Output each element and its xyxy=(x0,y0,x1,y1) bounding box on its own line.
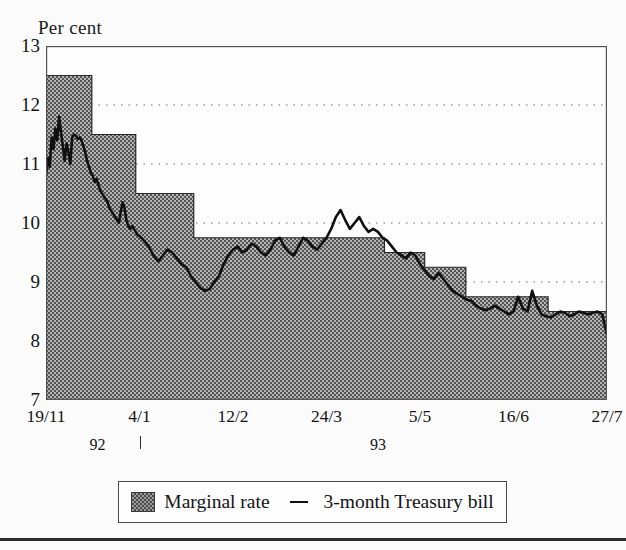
footer-rule xyxy=(0,538,626,541)
x-axis-tick-label: 4/1 xyxy=(128,408,150,426)
x-axis-tick-label: 16/6 xyxy=(498,408,529,426)
x-axis-tick-label: 12/2 xyxy=(217,408,248,426)
x-axis-tick-label: 5/5 xyxy=(409,408,431,426)
x-axis-tick-label: 27/7 xyxy=(591,408,622,426)
y-axis-tick-label: 13 xyxy=(6,36,40,55)
treasury-bill-line-icon xyxy=(290,501,308,503)
y-axis-title: Per cent xyxy=(38,17,102,39)
y-axis-tick-label: 11 xyxy=(6,154,40,173)
chart-figure: Per cent 78910111213 19/114/112/224/35/5… xyxy=(0,0,626,550)
legend-label-treasury-bill: 3-month Treasury bill xyxy=(324,491,494,513)
y-axis-tick-label: 9 xyxy=(6,272,40,291)
chart-legend: Marginal rate 3-month Treasury bill xyxy=(118,481,507,523)
x-axis-year-label: 92 xyxy=(89,437,105,453)
plot-area xyxy=(46,46,607,400)
y-axis-tick-label: 8 xyxy=(6,331,40,350)
legend-label-marginal-rate: Marginal rate xyxy=(164,491,269,513)
y-axis-tick-label: 10 xyxy=(6,213,40,232)
x-axis-year-label: 93 xyxy=(370,437,386,453)
y-axis-tick-label: 12 xyxy=(6,95,40,114)
x-axis-tick-label: 24/3 xyxy=(311,408,342,426)
x-axis-tick-label: 19/11 xyxy=(26,408,65,426)
year-boundary-tick xyxy=(140,436,141,449)
plot-svg xyxy=(46,46,607,400)
marginal-rate-swatch-icon xyxy=(131,492,155,512)
